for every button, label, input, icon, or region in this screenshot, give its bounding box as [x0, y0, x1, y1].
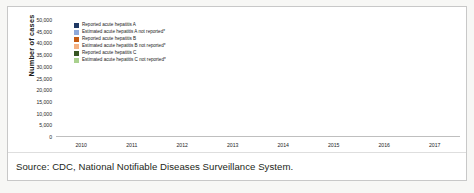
y-tick-label: 20,000 [18, 87, 52, 93]
legend-item-label: Reported acute hepatitis B [82, 36, 136, 42]
y-tick-label: 45,000 [18, 29, 52, 35]
legend-item[interactable]: Reported acute hepatitis A [74, 22, 166, 28]
legend-item[interactable]: Estimated acute hepatitis B not reported… [74, 43, 166, 49]
legend-item[interactable]: Reported acute hepatitis C [74, 50, 166, 56]
legend-swatch-icon [74, 30, 79, 35]
bar-group: 2017 [410, 20, 461, 137]
legend-item-label: Estimated acute hepatitis C not reported… [82, 57, 166, 63]
y-axis-tick-labels: 05,00010,00015,00020,00025,00030,00035,0… [18, 20, 52, 137]
legend-item-label: Reported acute hepatitis C [82, 50, 136, 56]
x-axis-group-label: 2016 [359, 142, 410, 148]
x-axis-group-label: 2013 [208, 142, 259, 148]
figure-container: Number of cases 05,00010,00015,00020,000… [0, 0, 474, 193]
legend-item-label: Reported acute hepatitis A [82, 22, 136, 28]
y-tick-label: 50,000 [18, 17, 52, 23]
legend-item[interactable]: Estimated acute hepatitis C not reported… [74, 57, 166, 63]
x-axis-group-label: 2017 [410, 142, 461, 148]
y-tick-label: 5,000 [18, 122, 52, 128]
x-axis-group-label: 2014 [258, 142, 309, 148]
legend-swatch-icon [74, 37, 79, 42]
legend-item-label: Estimated acute hepatitis A not reported… [82, 29, 165, 35]
bar-group: 2014 [258, 20, 309, 137]
y-tick-label: 30,000 [18, 64, 52, 70]
legend-swatch-icon [74, 51, 79, 56]
legend-item-label: Estimated acute hepatitis B not reported… [82, 43, 166, 49]
x-axis-group-label: 2015 [309, 142, 360, 148]
caption-band: Source: CDC, National Notifiable Disease… [8, 152, 466, 180]
x-axis-group-label: 2010 [56, 142, 107, 148]
y-tick-label: 0 [18, 134, 52, 140]
legend-swatch-icon [74, 44, 79, 49]
legend-swatch-icon [74, 58, 79, 63]
source-caption: Source: CDC, National Notifiable Disease… [8, 161, 293, 172]
chart-panel: Number of cases 05,00010,00015,00020,000… [8, 7, 466, 152]
x-axis-group-label: 2011 [107, 142, 158, 148]
chart-legend: Reported acute hepatitis AEstimated acut… [74, 22, 166, 63]
y-tick-label: 40,000 [18, 40, 52, 46]
y-tick-label: 15,000 [18, 99, 52, 105]
bar-group: 2015 [309, 20, 360, 137]
legend-item[interactable]: Estimated acute hepatitis A not reported… [74, 29, 166, 35]
y-tick-label: 35,000 [18, 52, 52, 58]
bar-group: 2016 [359, 20, 410, 137]
x-axis-group-label: 2012 [157, 142, 208, 148]
legend-item[interactable]: Reported acute hepatitis B [74, 36, 166, 42]
bar-group: 2013 [208, 20, 259, 137]
legend-swatch-icon [74, 23, 79, 28]
y-tick-label: 25,000 [18, 76, 52, 82]
y-tick-label: 10,000 [18, 111, 52, 117]
